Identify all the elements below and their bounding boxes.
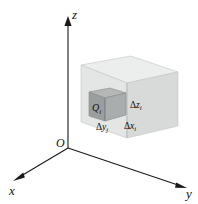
y-axis-line [68,148,178,185]
x-axis-line [21,148,68,176]
origin-label: O [56,136,65,150]
coordinate-system-figure: z x y O Qi Δzi Δyj Δxi [0,0,198,204]
z-axis-label: z [71,7,77,22]
delta-y-subscript: j [105,126,108,133]
delta-x-subscript: i [134,125,136,132]
x-axis-arrowhead [13,172,25,181]
delta-z-subscript: i [140,104,142,111]
z-axis-arrowhead [64,16,71,26]
charge-element-subscript: i [99,108,101,116]
y-axis-label: y [184,186,192,201]
x-axis-label: x [8,183,15,198]
figure-container: z x y O Qi Δzi Δyj Δxi [0,0,198,204]
